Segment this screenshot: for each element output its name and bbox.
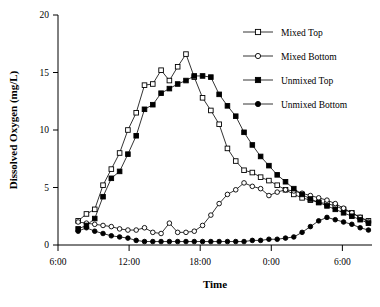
legend-marker (255, 29, 260, 34)
data-point (84, 225, 89, 230)
data-point (167, 239, 172, 244)
data-point (209, 213, 214, 218)
data-point (267, 193, 272, 198)
data-point (150, 230, 155, 235)
data-point (225, 239, 230, 244)
data-point (200, 223, 205, 228)
data-point (200, 74, 205, 79)
data-point (250, 184, 255, 189)
legend-label: Mixed Top (281, 28, 323, 38)
y-tick-label: 5 (44, 183, 49, 193)
data-point (258, 186, 263, 191)
data-point (233, 114, 238, 119)
data-point (350, 222, 355, 227)
data-point (275, 173, 280, 178)
x-tick-label: 6:00 (334, 257, 351, 267)
data-point (308, 224, 313, 229)
data-point (175, 230, 180, 235)
data-point (225, 104, 230, 109)
data-point (101, 194, 106, 199)
data-point (341, 206, 346, 211)
data-point (159, 91, 164, 96)
dissolved-oxygen-line-chart: 05101520 6:0012:0018:000:006:00 Time Dis… (0, 0, 380, 307)
data-point (275, 190, 280, 195)
data-point (200, 96, 205, 101)
data-point (267, 178, 272, 183)
data-point (117, 151, 122, 156)
data-point (316, 196, 321, 201)
legend-marker (255, 53, 260, 58)
data-point (167, 78, 172, 83)
data-point (192, 74, 197, 79)
data-point (150, 102, 155, 107)
data-point (109, 234, 114, 239)
data-point (159, 231, 164, 236)
data-point (150, 82, 155, 87)
data-point (325, 215, 330, 220)
data-point (308, 197, 313, 202)
data-point (192, 239, 197, 244)
data-point (126, 128, 131, 133)
data-point (316, 219, 321, 224)
data-point (233, 239, 238, 244)
y-tick-label: 15 (40, 68, 50, 78)
data-point (184, 230, 189, 235)
data-point (242, 239, 247, 244)
data-point (200, 239, 205, 244)
data-point (341, 211, 346, 216)
data-point (109, 167, 114, 172)
data-point (217, 239, 222, 244)
data-point (126, 228, 131, 233)
data-point (333, 207, 338, 212)
data-point (84, 212, 89, 217)
data-point (142, 225, 147, 230)
y-tick-label: 20 (40, 10, 50, 20)
caption-sliver (0, 303, 380, 307)
data-point (291, 235, 296, 240)
data-point (159, 239, 164, 244)
data-point (167, 221, 172, 226)
data-point (300, 230, 305, 235)
x-tick-label: 0:00 (263, 257, 280, 267)
data-point (134, 228, 139, 233)
data-point (366, 221, 371, 226)
data-point (225, 192, 230, 197)
data-point (217, 92, 222, 97)
data-point (267, 237, 272, 242)
data-point (134, 238, 139, 243)
data-point (92, 229, 97, 234)
data-point (258, 175, 263, 180)
y-tick-label: 0 (44, 240, 49, 250)
data-point (150, 239, 155, 244)
data-point (358, 225, 363, 230)
data-point (109, 224, 114, 229)
data-point (142, 107, 147, 112)
data-point (366, 228, 371, 233)
data-point (209, 108, 214, 113)
data-point (267, 163, 272, 168)
data-point (117, 235, 122, 240)
data-point (341, 220, 346, 225)
data-point (316, 200, 321, 205)
data-point (184, 52, 189, 57)
data-point (184, 78, 189, 83)
data-point (283, 236, 288, 241)
data-point (350, 214, 355, 219)
data-point (134, 110, 139, 115)
data-point (92, 207, 97, 212)
data-point (142, 83, 147, 88)
legend-label: Mixed Bottom (281, 52, 337, 62)
legend-label: Unmixed Bottom (281, 100, 348, 110)
data-point (209, 239, 214, 244)
data-point (250, 238, 255, 243)
data-point (175, 64, 180, 69)
x-axis-title: Time (203, 278, 227, 290)
data-point (101, 231, 106, 236)
data-point (217, 122, 222, 127)
data-point (258, 154, 263, 159)
data-point (325, 204, 330, 209)
data-point (225, 146, 230, 151)
data-point (175, 82, 180, 87)
data-point (283, 188, 288, 193)
data-point (142, 239, 147, 244)
